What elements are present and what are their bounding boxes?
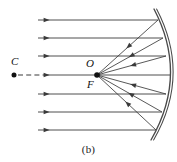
label-focal-point-F: F xyxy=(87,79,94,90)
reflected-ray-arrowhead xyxy=(130,83,136,87)
incoming-ray-arrowhead xyxy=(44,110,50,115)
incoming-ray-arrowhead xyxy=(44,18,50,23)
incoming-ray-arrowhead xyxy=(44,54,50,59)
point-center-of-curvature xyxy=(12,73,17,78)
mirror-front-surface xyxy=(151,9,171,140)
label-vertex-O: O xyxy=(86,58,94,69)
label-center-of-curvature: C xyxy=(11,56,18,67)
incoming-ray-arrowhead xyxy=(44,128,50,133)
incoming-ray-group xyxy=(38,18,170,133)
reflected-ray-arrowhead xyxy=(129,52,135,57)
reflected-ray-arrowhead xyxy=(128,93,134,98)
figure-container: C O F (b) xyxy=(0,0,177,162)
figure-caption: (b) xyxy=(0,143,177,155)
reflected-ray-arrowhead xyxy=(130,62,136,66)
incoming-ray-arrowhead xyxy=(44,36,50,41)
incoming-ray-arrowhead xyxy=(44,92,50,97)
concave-mirror xyxy=(151,9,173,140)
point-focal-point xyxy=(94,72,100,78)
incoming-ray-arrowhead xyxy=(44,73,50,78)
